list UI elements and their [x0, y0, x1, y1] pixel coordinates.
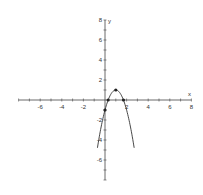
- x-tick-label: 4: [147, 104, 151, 110]
- point-root-2: [122, 98, 125, 101]
- y-tick-label: 4: [99, 57, 103, 63]
- y-tick-label: -4: [97, 137, 103, 143]
- point-root-1: [107, 98, 110, 101]
- point-vertex: [114, 88, 117, 91]
- y-tick-label: 8: [99, 17, 103, 23]
- y-tick-label: -6: [97, 157, 103, 163]
- coordinate-plane: -6-4-224688642-2-4-6 x y: [0, 0, 203, 195]
- x-axis-label: x: [188, 91, 191, 97]
- point-y-intercept: [103, 108, 106, 111]
- y-axis-label: y: [108, 18, 111, 24]
- x-tick-label: -2: [81, 104, 87, 110]
- x-tick-label: 8: [190, 104, 194, 110]
- y-tick-label: 2: [99, 77, 103, 83]
- axes: [19, 20, 192, 180]
- x-tick-label: 6: [168, 104, 172, 110]
- x-tick-label: -6: [38, 104, 44, 110]
- y-tick-label: 6: [99, 37, 103, 43]
- x-tick-label: -4: [59, 104, 65, 110]
